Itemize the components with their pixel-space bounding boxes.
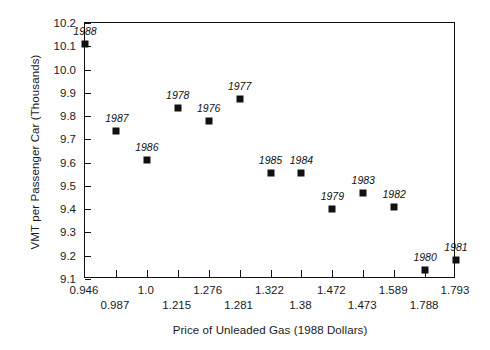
data-point-label: 1978	[166, 89, 189, 101]
data-point-marker	[205, 117, 212, 124]
y-axis-tick	[85, 209, 91, 210]
y-axis-tick-label: 9.9	[60, 87, 76, 99]
x-axis-tick-label: 1.472	[317, 284, 346, 296]
y-axis-tick	[85, 232, 91, 233]
x-axis-tick	[271, 270, 272, 277]
x-axis-tick-label: 1.589	[379, 284, 408, 296]
y-axis-tick	[85, 70, 91, 71]
data-point-label: 1982	[382, 188, 405, 200]
y-axis-tick	[85, 23, 91, 24]
x-axis-title: Price of Unleaded Gas (1988 Dollars)	[84, 324, 456, 336]
x-axis-tick	[332, 270, 333, 277]
data-point-label: 1981	[444, 241, 467, 253]
data-point-marker	[174, 104, 181, 111]
data-point-marker	[453, 257, 460, 264]
data-point-label: 1986	[135, 141, 158, 153]
x-axis-tick	[394, 270, 395, 277]
y-axis-tick-label: 9.4	[60, 203, 76, 215]
x-axis-tick-label: 1.0	[138, 284, 154, 296]
y-axis-tick-label: 9.6	[60, 157, 76, 169]
y-axis-title: VMT per Passenger Car (Thousands)	[29, 22, 41, 282]
x-axis-tick	[178, 270, 179, 277]
x-axis-tick-label: 1.788	[410, 299, 439, 311]
x-axis-tick-label: 1.38	[289, 299, 311, 311]
x-axis-tick-label: 0.946	[70, 284, 99, 296]
y-axis-tick-label: 10.0	[54, 64, 76, 76]
x-axis-tick	[240, 270, 241, 277]
x-axis-tick-label: 1.276	[193, 284, 222, 296]
x-axis-tick-label: 1.322	[255, 284, 284, 296]
data-point-label: 1977	[228, 80, 251, 92]
y-axis-tick	[85, 116, 91, 117]
data-point-marker	[112, 128, 119, 135]
data-point-marker	[143, 157, 150, 164]
data-point-marker	[422, 266, 429, 273]
y-axis-tick-label: 9.7	[60, 133, 76, 145]
x-axis-tick	[301, 270, 302, 277]
scatter-chart-figure: VMT per Passenger Car (Thousands) 10.210…	[0, 0, 490, 350]
y-axis-tick-label: 10.1	[54, 40, 76, 52]
x-axis-tick-label: 1.793	[441, 284, 470, 296]
x-axis-tick	[363, 270, 364, 277]
data-point-label: 1987	[105, 112, 128, 124]
x-axis-tick	[116, 270, 117, 277]
x-axis-tick-label: 1.281	[224, 299, 253, 311]
data-point-label: 1983	[352, 174, 375, 186]
x-axis-tick-label: 1.215	[162, 299, 191, 311]
y-axis-tick	[85, 256, 91, 257]
data-point-marker	[360, 189, 367, 196]
data-point-label: 1979	[321, 190, 344, 202]
data-point-marker	[267, 170, 274, 177]
x-axis-tick	[209, 270, 210, 277]
data-point-marker	[391, 203, 398, 210]
y-axis-tick	[85, 163, 91, 164]
data-point-label: 1985	[259, 154, 282, 166]
y-axis-tick	[85, 279, 91, 280]
y-axis-tick-label: 9.3	[60, 226, 76, 238]
y-axis-tick	[85, 93, 91, 94]
data-point-marker	[236, 95, 243, 102]
data-point-label: 1980	[413, 251, 436, 263]
data-point-marker	[82, 40, 89, 47]
plot-area: 10.210.110.09.99.89.79.69.59.49.39.29.1 …	[84, 22, 455, 278]
x-axis-tick-label: 0.987	[101, 299, 130, 311]
y-axis-tick	[85, 139, 91, 140]
y-axis-tick-label: 9.8	[60, 110, 76, 122]
x-axis-tick-label: 1.473	[348, 299, 377, 311]
x-axis-tick	[147, 270, 148, 277]
y-axis-tick-label: 9.5	[60, 180, 76, 192]
data-point-label: 1988	[73, 25, 96, 37]
y-axis-tick	[85, 186, 91, 187]
y-axis-tick-label: 9.2	[60, 250, 76, 262]
data-point-label: 1984	[290, 154, 313, 166]
data-point-label: 1976	[197, 102, 220, 114]
data-point-marker	[298, 170, 305, 177]
data-point-marker	[329, 206, 336, 213]
